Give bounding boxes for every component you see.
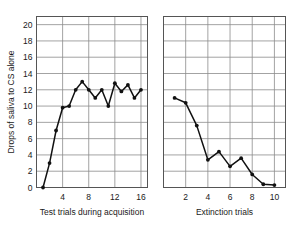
x-tick-label-acquisition: 8 <box>86 192 91 202</box>
data-point-extinction <box>261 182 265 186</box>
data-point-acquisition <box>93 96 97 100</box>
data-point-extinction <box>273 183 277 187</box>
data-point-acquisition <box>80 80 84 84</box>
y-axis-title: Drops of saliva to CS alone <box>6 50 16 153</box>
x-axis-title-acquisition: Test trials during acquisition <box>40 207 145 217</box>
figure-container: 48121602468101214161820Test trials durin… <box>0 0 293 232</box>
x-tick-label-acquisition: 12 <box>110 192 120 202</box>
data-point-acquisition <box>61 106 65 110</box>
classical-conditioning-chart: 48121602468101214161820Test trials durin… <box>0 0 293 232</box>
x-axis-title-extinction: Extinction trials <box>196 207 253 217</box>
data-point-extinction <box>184 101 188 105</box>
data-point-acquisition <box>106 104 110 108</box>
y-tick-label: 0 <box>28 183 33 193</box>
data-point-extinction <box>250 173 254 177</box>
x-tick-label-extinction: 8 <box>250 192 255 202</box>
data-point-acquisition <box>67 104 71 108</box>
data-point-acquisition <box>100 88 104 92</box>
data-point-acquisition <box>41 186 45 190</box>
y-tick-label: 8 <box>28 117 33 127</box>
panel-extinction: 246810Extinction trials <box>164 17 286 217</box>
data-point-acquisition <box>87 88 91 92</box>
y-tick-label: 10 <box>23 101 33 111</box>
data-point-acquisition <box>48 161 52 165</box>
y-tick-label: 2 <box>28 166 33 176</box>
y-tick-label: 12 <box>23 85 33 95</box>
data-point-acquisition <box>133 96 137 100</box>
data-point-acquisition <box>126 83 130 87</box>
y-tick-label: 16 <box>23 52 33 62</box>
y-tick-label: 20 <box>23 20 33 30</box>
y-tick-label: 6 <box>28 134 33 144</box>
data-point-acquisition <box>54 129 58 133</box>
x-tick-label-acquisition: 4 <box>60 192 65 202</box>
x-tick-label-extinction: 10 <box>270 192 280 202</box>
y-tick-label: 14 <box>23 69 33 79</box>
data-point-acquisition <box>139 88 143 92</box>
data-point-extinction <box>195 124 199 128</box>
data-point-extinction <box>217 150 221 154</box>
x-tick-label-extinction: 6 <box>228 192 233 202</box>
panel-acquisition: 48121602468101214161820Test trials durin… <box>23 17 147 217</box>
plot-background-acquisition <box>37 17 148 188</box>
data-point-acquisition <box>113 81 117 85</box>
data-point-extinction <box>173 96 177 100</box>
data-point-extinction <box>206 158 210 162</box>
x-tick-label-extinction: 4 <box>205 192 210 202</box>
plot-background-extinction <box>164 17 286 188</box>
data-point-acquisition <box>119 90 123 94</box>
y-tick-label: 18 <box>23 36 33 46</box>
x-tick-label-extinction: 2 <box>183 192 188 202</box>
data-point-acquisition <box>74 88 78 92</box>
data-point-extinction <box>239 156 243 160</box>
data-point-extinction <box>228 164 232 168</box>
y-tick-label: 4 <box>28 150 33 160</box>
x-tick-label-acquisition: 16 <box>136 192 146 202</box>
